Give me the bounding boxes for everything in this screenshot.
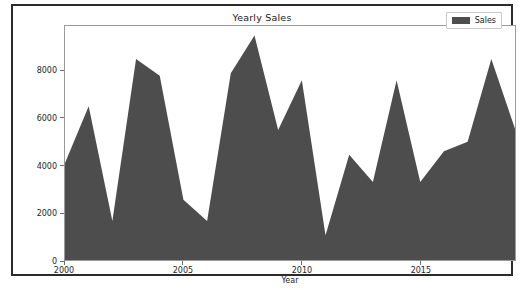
area-polygon-sales bbox=[65, 35, 515, 260]
legend-label-sales: Sales bbox=[475, 16, 496, 25]
x-axis-label: Year bbox=[64, 276, 516, 285]
y-tick-label: 2000 bbox=[37, 209, 57, 218]
x-tick-label: 2015 bbox=[411, 266, 431, 275]
x-tick-label: 2010 bbox=[292, 266, 312, 275]
y-tick-label: 6000 bbox=[37, 113, 57, 122]
y-tick-label: 8000 bbox=[37, 66, 57, 75]
legend: Sales bbox=[446, 12, 502, 29]
x-tick-mark bbox=[64, 261, 65, 265]
figure-frame: Yearly Sales 02000400060008000 200020052… bbox=[11, 4, 513, 276]
x-tick-mark bbox=[182, 261, 183, 265]
y-tick-label: 4000 bbox=[37, 161, 57, 170]
x-tick-label: 2005 bbox=[173, 266, 193, 275]
legend-swatch-sales bbox=[452, 17, 470, 24]
x-tick-label: 2000 bbox=[54, 266, 74, 275]
plot-area bbox=[64, 25, 516, 261]
chart-title: Yearly Sales bbox=[13, 12, 511, 23]
y-axis: 02000400060008000 bbox=[13, 6, 64, 274]
area-series-sales bbox=[65, 26, 515, 260]
chart-screenshot: Yearly Sales 02000400060008000 200020052… bbox=[0, 0, 523, 290]
x-tick-mark bbox=[301, 261, 302, 265]
x-tick-mark bbox=[420, 261, 421, 265]
